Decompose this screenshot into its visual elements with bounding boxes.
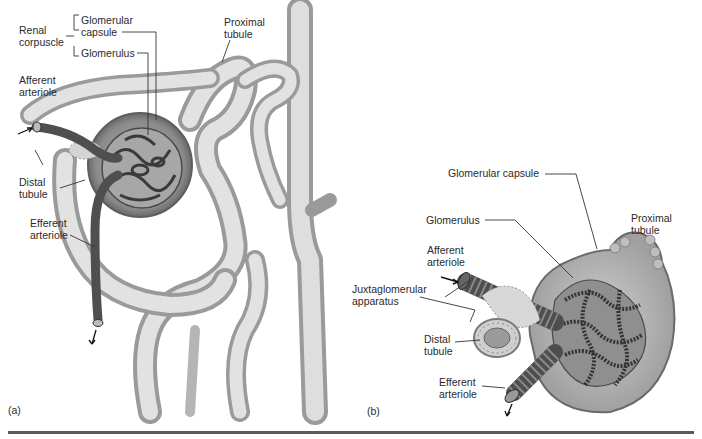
panel-label-b: (b) — [367, 405, 380, 417]
label-proximal-tubule-a: Proximal tubule — [224, 16, 265, 40]
panel-a-drawing — [30, 10, 330, 412]
label-proximal-tubule-b: Proximal tubule — [631, 212, 672, 236]
label-efferent-arteriole-b: Efferent arteriole — [439, 376, 477, 400]
label-glomerular-capsule-b: Glomerular capsule — [448, 167, 539, 179]
label-distal-tubule-b: Distal tubule — [424, 333, 453, 357]
bottom-rule — [8, 431, 694, 434]
nephron-illustration — [0, 0, 702, 439]
label-afferent-arteriole-a: Afferent arteriole — [19, 74, 57, 98]
label-efferent-arteriole-a: Efferent arteriole — [30, 217, 68, 241]
label-distal-tubule-a: Distal tubule — [19, 176, 48, 200]
label-glomerulus-a: Glomerulus — [81, 47, 135, 59]
panel-label-a: (a) — [8, 404, 21, 416]
label-afferent-arteriole-b: Afferent arteriole — [427, 244, 465, 268]
label-renal-corpuscle: Renal corpuscle — [19, 24, 64, 48]
label-juxtaglomerular-apparatus: Juxtaglomerular apparatus — [352, 283, 427, 307]
label-glomerular-capsule-a: Glomerular capsule — [81, 14, 133, 38]
label-glomerulus-b: Glomerulus — [426, 214, 480, 226]
